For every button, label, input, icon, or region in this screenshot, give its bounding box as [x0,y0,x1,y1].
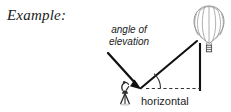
line-of-sight [141,41,197,88]
figure-container: Example: angle of elevation horizontal [0,0,231,112]
surveyor-observer-icon [120,81,130,106]
hot-air-balloon-icon [194,6,224,52]
diagram-canvas [0,0,231,112]
leader-arrow-icon [108,53,142,90]
